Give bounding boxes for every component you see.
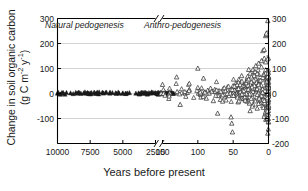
- markers-anthro-pedogenesis: [159, 18, 271, 135]
- x-tick-label: 50: [213, 147, 253, 157]
- axis-break-marks: [154, 15, 164, 147]
- y-tick-label-left: 200: [30, 39, 54, 49]
- y-tick-label-left: -100: [30, 114, 54, 124]
- x-tick-label: 100: [178, 147, 218, 157]
- region-annotation-natural: Natural pedogenesis: [45, 20, 124, 30]
- x-tick-label: 150: [143, 147, 183, 157]
- y-tick-label-right: 0: [272, 89, 277, 99]
- x-tick-label: 0: [249, 147, 289, 157]
- y-tick-label-right: -100: [272, 114, 289, 124]
- y-tick-label-right: 100: [272, 64, 286, 74]
- y-tick-label-left: 0: [30, 89, 54, 99]
- y-tick-label-right: 200: [272, 39, 286, 49]
- y-tick-label-left: 100: [30, 64, 54, 74]
- region-annotation-anthro: Anthro-pedogenesis: [144, 20, 221, 30]
- y-tick-label-right: 300: [272, 14, 286, 24]
- x-axis-title: Years before present: [0, 166, 308, 178]
- markers-natural-pedogenesis: [55, 89, 176, 96]
- chart-figure: Change in soil organic carbon (g C m-2 y…: [0, 0, 308, 191]
